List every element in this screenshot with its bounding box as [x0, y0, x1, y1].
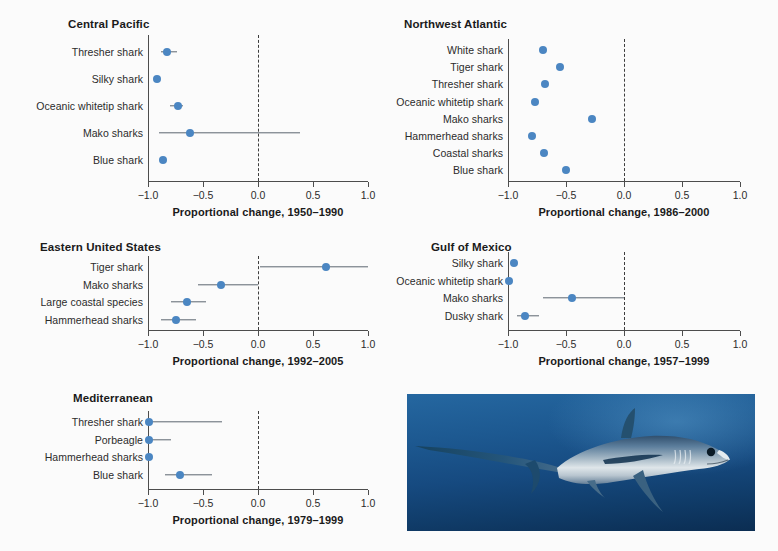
thresher-shark-silhouette: [407, 394, 755, 531]
x-tick-mediterranean-4: [368, 490, 369, 495]
zero-reference-line-mediterranean: [258, 411, 259, 489]
shark-decline-figure: Central Pacific−1.0−0.50.00.51.0Proporti…: [0, 0, 778, 551]
x-tick-label-mediterranean-2: 0.0: [251, 497, 266, 509]
x-tick-mediterranean-2: [258, 490, 259, 495]
error-bar-mediterranean-3: [165, 474, 212, 475]
category-label-mediterranean-0: Thresher shark: [72, 416, 143, 428]
category-label-mediterranean-1: Porbeagle: [95, 434, 143, 446]
x-tick-mediterranean-3: [313, 490, 314, 495]
data-point-mediterranean-1: [145, 436, 153, 444]
x-tick-label-mediterranean-3: 0.5: [306, 497, 321, 509]
x-tick-mediterranean-0: [148, 490, 149, 495]
data-point-mediterranean-3: [176, 471, 184, 479]
x-tick-label-mediterranean-1: −0.5: [193, 497, 214, 509]
x-tick-label-mediterranean-0: −1.0: [138, 497, 159, 509]
data-point-mediterranean-2: [145, 453, 153, 461]
data-point-mediterranean-0: [145, 418, 153, 426]
category-label-mediterranean-3: Blue shark: [93, 469, 143, 481]
shark-photo: [407, 394, 755, 531]
error-bar-mediterranean-0: [149, 421, 222, 422]
panel-title-mediterranean: Mediterranean: [73, 392, 153, 404]
x-tick-mediterranean-1: [203, 490, 204, 495]
category-label-mediterranean-2: Hammerhead sharks: [45, 451, 143, 463]
x-axis-caption-mediterranean: Proportional change, 1979–1999: [172, 514, 343, 526]
x-tick-label-mediterranean-4: 1.0: [361, 497, 376, 509]
